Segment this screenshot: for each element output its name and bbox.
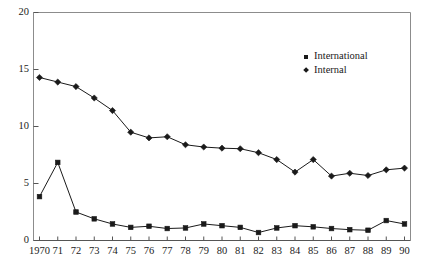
diamond-data-point	[182, 142, 188, 148]
square-data-point	[183, 226, 188, 231]
series-internal	[36, 74, 407, 179]
x-axis-ticks	[40, 237, 405, 241]
diamond-data-point	[73, 84, 79, 90]
square-data-point	[293, 223, 298, 228]
square-data-point	[92, 217, 97, 222]
square-data-point	[238, 225, 243, 230]
square-data-point	[256, 230, 261, 235]
diamond-marker-icon	[300, 68, 312, 72]
diamond-data-point	[201, 144, 207, 150]
square-data-point	[402, 222, 407, 227]
diamond-data-point	[219, 145, 225, 151]
x-tick-label: 90	[388, 246, 422, 257]
diamond-data-point	[146, 135, 152, 141]
diamond-data-point	[401, 165, 407, 171]
square-data-point	[110, 222, 115, 227]
series-international	[37, 160, 407, 235]
square-data-point	[55, 160, 60, 165]
diamond-data-point	[383, 167, 389, 173]
square-data-point	[329, 226, 334, 231]
diamond-data-point	[347, 170, 353, 176]
series-line	[40, 77, 405, 176]
diamond-data-point	[365, 172, 371, 178]
square-data-point	[165, 226, 170, 231]
diamond-data-point	[274, 156, 280, 162]
legend-label-international: International	[312, 51, 368, 62]
chart-legend: International Internal	[300, 50, 412, 78]
square-data-point	[274, 226, 279, 231]
chart-plot-area	[0, 0, 423, 273]
square-data-point	[147, 224, 152, 229]
diamond-data-point	[255, 150, 261, 156]
diamond-data-point	[55, 79, 61, 85]
y-axis-ticks	[34, 13, 39, 241]
legend-item-internal[interactable]: Internal	[300, 64, 412, 77]
y-tick-label: 0	[4, 235, 29, 246]
y-tick-label: 10	[4, 121, 29, 132]
diamond-data-point	[164, 134, 170, 140]
square-data-point	[220, 223, 225, 228]
square-data-point	[128, 225, 133, 230]
diamond-data-point	[91, 95, 97, 101]
legend-label-internal: Internal	[312, 65, 347, 76]
square-data-point	[201, 222, 206, 227]
square-data-point	[311, 225, 316, 230]
plot-frame	[34, 13, 411, 241]
square-data-point	[347, 227, 352, 232]
diamond-data-point	[292, 169, 298, 175]
y-tick-label: 5	[4, 178, 29, 189]
diamond-data-point	[237, 146, 243, 152]
chart-figure: 05101520 1970717273747576777879808182838…	[0, 0, 423, 273]
diamond-data-point	[36, 74, 42, 80]
y-tick-label: 20	[4, 7, 29, 18]
square-data-point	[384, 218, 389, 223]
square-marker-icon	[300, 55, 312, 59]
y-tick-label: 15	[4, 64, 29, 75]
legend-item-international[interactable]: International	[300, 50, 412, 63]
square-data-point	[74, 210, 79, 215]
square-data-point	[366, 228, 371, 233]
square-data-point	[37, 194, 42, 199]
data-series-layer	[36, 74, 407, 234]
